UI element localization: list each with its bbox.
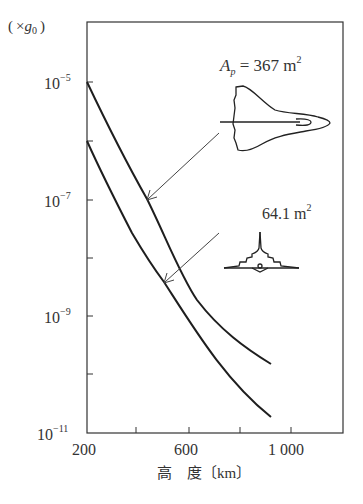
x-tick-label-200: 200 xyxy=(72,441,96,458)
y-tick-label-1e-11: 10−11 xyxy=(37,423,68,443)
orbiter-front-view-icon xyxy=(224,232,299,272)
y-tick-label-1e-5: 10−5 xyxy=(44,72,71,92)
x-axis-title: 高 度〔km〕 xyxy=(157,465,251,481)
arrow-64 xyxy=(164,233,219,283)
y-tick-label-1e-7: 10−7 xyxy=(44,190,71,210)
series-64-label: 64.1 m2 xyxy=(262,202,311,222)
plot-frame xyxy=(87,22,343,433)
chart: (×g0) 10−5 10−7 10−9 10−11 200 600 1 000… xyxy=(0,0,363,504)
arrow-367 xyxy=(147,133,219,200)
y-ticks xyxy=(87,82,93,374)
series-367-curve xyxy=(87,82,271,364)
series-367-label: Ap = 367 m2 xyxy=(219,54,301,77)
x-ticks xyxy=(136,427,291,433)
x-tick-label-600: 600 xyxy=(174,441,198,458)
orbiter-top-view-icon xyxy=(220,86,330,151)
y-unit-label: (×g0) xyxy=(8,18,45,36)
y-tick-label-1e-9: 10−9 xyxy=(44,306,71,326)
series-64-curve xyxy=(87,141,271,417)
x-tick-label-1000: 1 000 xyxy=(268,441,304,458)
